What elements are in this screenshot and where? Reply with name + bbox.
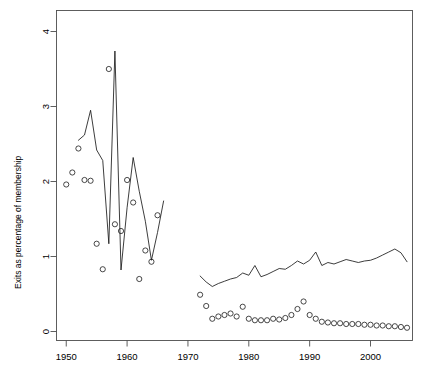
data-point [70, 170, 75, 175]
x-tick-label: 1990 [299, 351, 320, 362]
data-point [277, 317, 282, 322]
data-point [264, 318, 269, 323]
y-axis-ticks [51, 32, 57, 332]
data-point [331, 321, 336, 326]
data-point [356, 321, 361, 326]
data-point [325, 320, 330, 325]
data-point [374, 323, 379, 328]
data-series-layer [64, 51, 410, 330]
data-point [386, 324, 391, 329]
data-point [131, 200, 136, 205]
series-late-line [200, 249, 407, 287]
series-early-points [64, 66, 160, 281]
data-point [301, 299, 306, 304]
data-point [76, 146, 81, 151]
y-tick-label: 4 [40, 29, 51, 34]
data-point [198, 292, 203, 297]
data-point [271, 316, 276, 321]
chart-container: 195019601970198019902000 01234 Exits as … [0, 0, 425, 377]
data-point [246, 316, 251, 321]
y-tick-label: 0 [40, 329, 51, 334]
x-tick-label: 1950 [56, 351, 77, 362]
y-tick-label: 2 [40, 179, 51, 184]
data-point [307, 312, 312, 317]
data-point [344, 321, 349, 326]
x-tick-label: 1970 [177, 351, 198, 362]
data-point [204, 303, 209, 308]
data-point [124, 177, 129, 182]
data-point [106, 66, 111, 71]
data-point [82, 177, 87, 182]
data-point [362, 322, 367, 327]
data-point [143, 248, 148, 253]
data-point [392, 324, 397, 329]
data-point [350, 321, 355, 326]
data-point [155, 213, 160, 218]
y-tick-label: 3 [40, 104, 51, 109]
data-point [64, 182, 69, 187]
y-tick-label: 1 [40, 254, 51, 259]
data-point [252, 318, 257, 323]
data-point [404, 325, 409, 330]
x-tick-label: 2000 [360, 351, 381, 362]
data-point [100, 267, 105, 272]
axis-box [57, 11, 413, 341]
data-point [289, 312, 294, 317]
plot-area: 195019601970198019902000 01234 [0, 0, 425, 377]
data-point [380, 323, 385, 328]
data-point [337, 321, 342, 326]
series-late-points [198, 292, 410, 330]
data-point [94, 241, 99, 246]
data-point [118, 228, 123, 233]
x-tick-label: 1960 [117, 351, 138, 362]
data-point [295, 306, 300, 311]
data-point [234, 314, 239, 319]
data-point [137, 276, 142, 281]
data-point [368, 322, 373, 327]
y-axis-tick-labels: 01234 [40, 29, 51, 334]
x-axis-ticks [66, 341, 370, 347]
data-point [88, 178, 93, 183]
series-early-line [78, 51, 163, 270]
y-axis-title: Exits as percentage of membership [13, 156, 23, 289]
data-point [222, 312, 227, 317]
data-point [283, 315, 288, 320]
data-point [210, 316, 215, 321]
data-point [228, 311, 233, 316]
data-point [112, 222, 117, 227]
x-axis-tick-labels: 195019601970198019902000 [56, 351, 381, 362]
x-tick-label: 1980 [238, 351, 259, 362]
data-point [313, 316, 318, 321]
data-point [398, 324, 403, 329]
data-point [216, 314, 221, 319]
data-point [258, 318, 263, 323]
data-point [319, 319, 324, 324]
data-point [240, 304, 245, 309]
